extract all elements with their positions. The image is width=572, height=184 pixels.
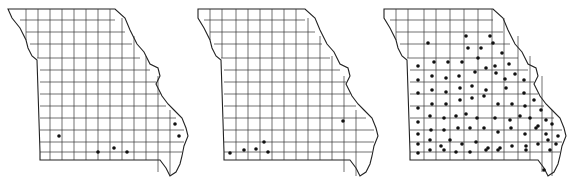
occurrence-dot (470, 96, 474, 100)
state-outline (384, 9, 566, 176)
occurrence-dot (416, 106, 420, 110)
occurrence-dot (466, 46, 470, 50)
occurrence-dot (528, 116, 532, 120)
occurrence-dot (442, 128, 446, 132)
occurrence-dot (488, 34, 492, 38)
occurrence-dot (500, 51, 504, 55)
occurrence-dot (430, 74, 434, 78)
occurrence-dot (494, 71, 498, 75)
occurrence-dot (491, 41, 495, 45)
occurrence-dot (458, 86, 462, 90)
occurrence-dot (57, 134, 61, 138)
occurrence-dot (503, 77, 507, 81)
occurrence-dot (428, 114, 432, 118)
occurrence-dot (536, 142, 540, 146)
occurrence-dot (532, 98, 536, 102)
occurrence-dot (468, 150, 472, 154)
occurrence-dot (416, 142, 420, 146)
occurrence-dot (448, 138, 452, 142)
map-panel-2 (190, 0, 380, 184)
occurrence-dot (484, 88, 488, 92)
occurrence-dot (509, 126, 513, 130)
occurrence-dot (442, 116, 446, 120)
occurrence-dot (460, 142, 464, 146)
occurrence-dot (177, 134, 181, 138)
occurrence-dot (341, 119, 345, 123)
occurrence-dot (457, 74, 461, 78)
occurrence-dot (546, 138, 550, 142)
occurrence-dot (556, 134, 560, 138)
occurrence-dot (242, 148, 246, 152)
occurrence-dot (482, 126, 486, 130)
occurrence-dot (428, 148, 432, 152)
occurrence-dot (484, 66, 488, 70)
occurrence-dot (96, 150, 100, 154)
occurrence-dot (504, 86, 508, 90)
occurrence-dot (125, 150, 129, 154)
occurrence-dot (484, 148, 488, 152)
occurrence-dot (112, 146, 116, 150)
map-panel-1 (0, 0, 190, 184)
missouri-map (380, 0, 570, 184)
occurrence-dot (454, 150, 458, 154)
occurrence-dot (416, 120, 420, 124)
occurrence-dot (456, 126, 460, 130)
occurrence-dot (493, 64, 497, 68)
occurrence-dot (228, 151, 232, 155)
occurrence-dot (482, 94, 486, 98)
occurrence-dot (444, 76, 448, 80)
occurrence-dot (266, 150, 270, 154)
occurrence-dot (476, 56, 480, 60)
occurrence-dot (524, 144, 528, 148)
occurrence-dot (473, 70, 477, 74)
occurrence-dot (518, 114, 522, 118)
occurrence-dot (544, 118, 548, 122)
occurrence-dot (464, 112, 468, 116)
occurrence-dot (522, 91, 526, 95)
occurrence-dot (416, 151, 420, 155)
occurrence-dot (254, 147, 258, 151)
occurrence-dot (454, 114, 458, 118)
occurrence-dot (444, 102, 448, 106)
occurrence-dot (444, 90, 448, 94)
occurrence-dot (464, 34, 468, 38)
state-outline (198, 9, 378, 176)
occurrence-dot (442, 148, 446, 152)
occurrence-dot (479, 46, 483, 50)
occurrence-dot (432, 60, 436, 64)
occurrence-dot (416, 78, 420, 82)
missouri-map (0, 0, 190, 184)
occurrence-dot (446, 60, 450, 64)
occurrence-dot (523, 104, 527, 108)
occurrence-dot (524, 148, 528, 152)
occurrence-dot (262, 140, 266, 144)
occurrence-dot (542, 168, 546, 172)
occurrence-dot (513, 72, 517, 76)
map-panel-3 (380, 0, 570, 184)
occurrence-dot (544, 132, 548, 136)
occurrence-dot (468, 126, 472, 130)
occurrence-dot (173, 122, 177, 126)
occurrence-dot (539, 108, 543, 112)
occurrence-dot (534, 126, 538, 130)
occurrence-dot (439, 144, 443, 148)
occurrence-dot (496, 148, 500, 152)
occurrence-dot (470, 84, 474, 88)
occurrence-dot (428, 138, 432, 142)
occurrence-dot (522, 78, 526, 82)
missouri-map (190, 0, 380, 184)
occurrence-dot (430, 88, 434, 92)
occurrence-dot (496, 130, 500, 134)
occurrence-dot (474, 140, 478, 144)
occurrence-dot (550, 122, 554, 126)
occurrence-dot (426, 41, 430, 45)
occurrence-dot (430, 102, 434, 106)
occurrence-dot (416, 91, 420, 95)
occurrence-dot (507, 62, 511, 66)
occurrence-dot (523, 132, 527, 136)
occurrence-dot (458, 98, 462, 102)
occurrence-dot (510, 144, 514, 148)
occurrence-dot (475, 116, 479, 120)
occurrence-dot (508, 118, 512, 122)
occurrence-dot (493, 116, 497, 120)
